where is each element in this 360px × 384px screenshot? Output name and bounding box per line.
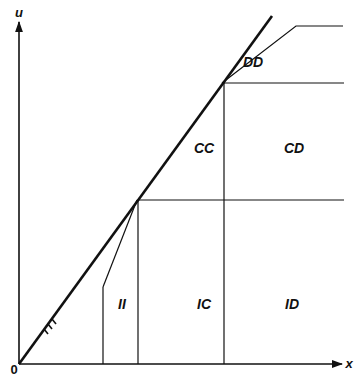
region-label-cd: CD	[284, 140, 304, 156]
dd-boundary	[222, 26, 343, 83]
region-label-cc: CC	[194, 140, 215, 156]
y-axis-label: u	[15, 5, 23, 20]
origin-label: 0	[10, 362, 17, 377]
region-label-id: ID	[285, 296, 299, 312]
region-label-ii: II	[118, 296, 127, 312]
region-diagram: DD CC CD II IC ID u x 0	[0, 0, 360, 384]
x-axis-label: x	[344, 356, 353, 371]
region-label-dd: DD	[243, 54, 263, 70]
region-label-ic: IC	[197, 296, 212, 312]
diagonal-line	[19, 16, 272, 364]
